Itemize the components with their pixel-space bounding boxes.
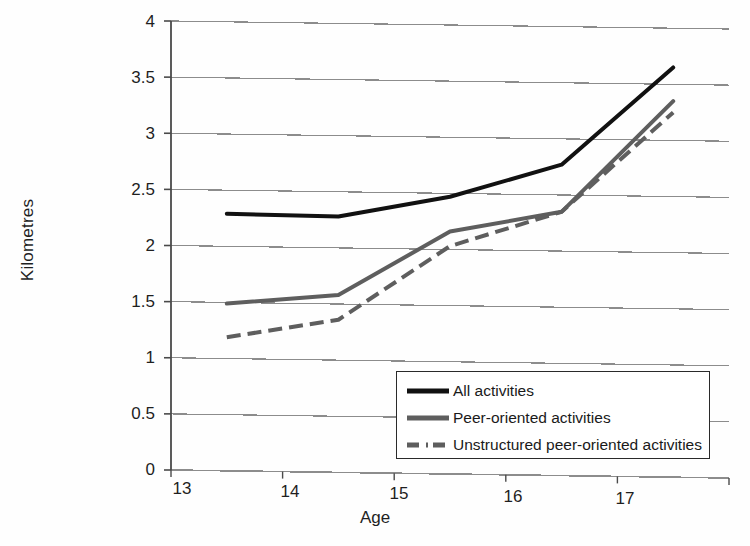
- legend-item-unstructured-peer-oriented-activities: Unstructured peer-oriented activities: [405, 432, 709, 457]
- legend-label-peer-oriented-activities: Peer-oriented activities: [453, 409, 611, 427]
- series-line-0: [227, 67, 673, 216]
- legend-item-all-activities: All activities: [405, 378, 709, 403]
- y-axis-ticks: [164, 21, 171, 470]
- legend-label-all-activities: All activities: [453, 382, 534, 400]
- plot-area: [0, 0, 750, 546]
- legend-label-unstructured-peer-oriented-activities: Unstructured peer-oriented activities: [453, 436, 702, 454]
- legend-swatch-solid-black-line: [405, 384, 451, 398]
- legend-swatch-solid-grey-line: [405, 411, 451, 425]
- data-series-group: [227, 67, 673, 337]
- legend-item-peer-oriented-activities: Peer-oriented activities: [405, 405, 709, 430]
- series-line-1: [227, 101, 673, 303]
- legend-swatch-dashed-grey-line: [405, 438, 451, 452]
- legend: All activities Peer-oriented activities …: [396, 371, 710, 459]
- chart-figure: Kilometres 4 3.5 3 2.5 2 1.5 1 0.5 0 13 …: [0, 0, 750, 546]
